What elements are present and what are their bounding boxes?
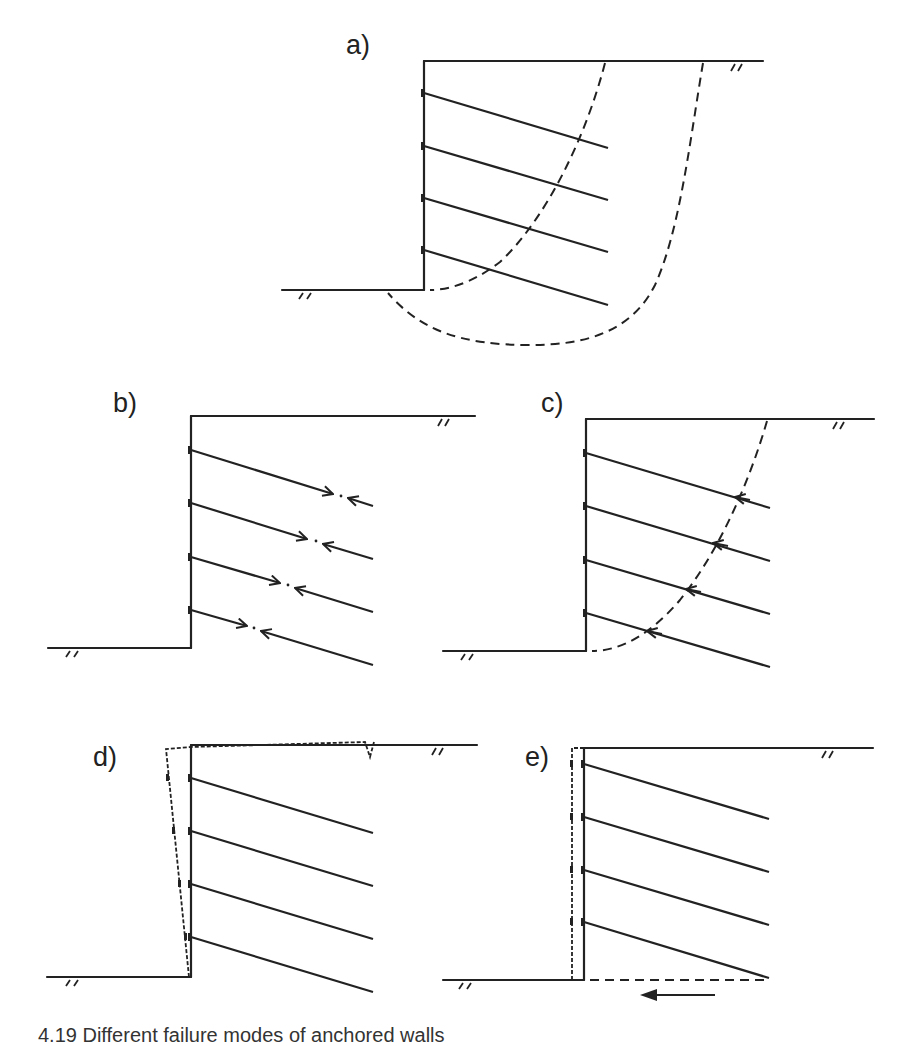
panel-b <box>48 416 475 665</box>
anchors-pullout <box>583 449 770 667</box>
sliding-direction-arrow-icon <box>640 989 715 1001</box>
ground-hatch-icon <box>459 751 833 989</box>
anchors <box>581 760 769 978</box>
panel-label-e: e) <box>525 742 549 773</box>
anchors-tension <box>188 446 373 665</box>
displaced-wall-sliding <box>572 748 584 980</box>
figure-caption: 4.19 Different failure modes of anchored… <box>38 1024 445 1046</box>
panel-a <box>282 61 763 345</box>
ground-hatch-icon <box>299 64 742 299</box>
failure-surface <box>592 421 767 651</box>
panel-d <box>47 742 477 992</box>
anchors <box>188 774 373 992</box>
failure-surface-shallow <box>430 63 605 290</box>
ground-hatch-icon <box>461 422 844 660</box>
displaced-wall-rotation <box>166 742 374 977</box>
panel-label-c: c) <box>541 388 564 419</box>
panel-label-a: a) <box>346 30 370 61</box>
ground-hatch-icon <box>66 748 443 986</box>
panel-label-d: d) <box>93 742 117 773</box>
anchors <box>421 89 608 305</box>
panel-e <box>443 748 873 1001</box>
ground-hatch-icon <box>66 419 449 657</box>
panel-c <box>443 419 874 667</box>
panel-label-b: b) <box>113 388 137 419</box>
